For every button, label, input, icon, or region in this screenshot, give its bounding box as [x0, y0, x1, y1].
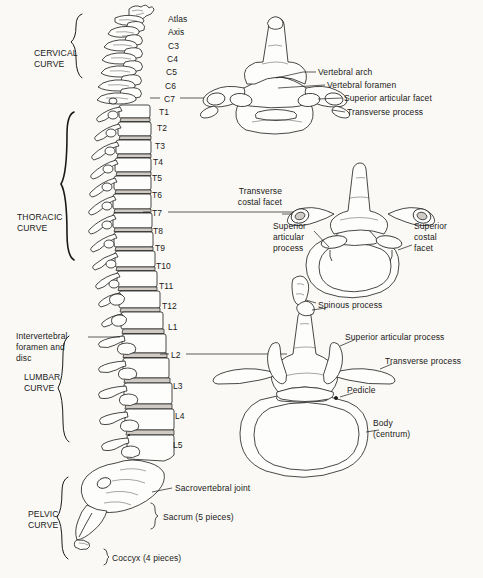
vertebra-label-c7: C7 — [164, 94, 175, 105]
callout-transverse-process-cervical: Transverse process — [347, 107, 423, 118]
vertebra-label-t2: T2 — [157, 123, 167, 134]
vertebra-label-t4: T4 — [153, 157, 163, 168]
sacrum-coccyx — [74, 460, 164, 550]
vertebra-label-t11: T11 — [159, 281, 173, 292]
spine-anatomy-figure: CERVICALCURVE THORACICCURVE LUMBARCURVE … — [0, 0, 483, 578]
callout-transverse-process-lumbar: Transverse process — [385, 356, 461, 367]
curve-label-lumbar: LUMBARCURVE — [24, 372, 60, 394]
callout-body-centrum: Body (centrum) — [373, 418, 410, 440]
callout-vertebral-foramen: Vertebral foramen — [327, 80, 396, 91]
curve-label-cervical: CERVICALCURVE — [34, 48, 78, 70]
vertebra-label-l3: L3 — [173, 381, 183, 392]
vertebra-label-atlas: Atlas — [168, 14, 187, 25]
callout-superior-costal-facet: Superior costal facet — [414, 221, 447, 254]
callout-transverse-costal-facet: Transverse costal facet — [228, 186, 282, 208]
vertebra-label-l2: L2 — [171, 350, 181, 361]
vertebra-label-t7: T7 — [152, 208, 162, 219]
vertebra-label-t10: T10 — [156, 261, 171, 272]
vertebra-label-l1: L1 — [168, 322, 178, 333]
callout-vertebral-arch: Vertebral arch — [318, 67, 372, 78]
vertebra-label-c5: C5 — [166, 67, 177, 78]
vertebra-label-t8: T8 — [153, 226, 163, 237]
callout-spinous-process: Spinous process — [318, 300, 382, 311]
label-sacrovertebral-joint: Sacrovertebral joint — [175, 483, 250, 494]
vertebra-label-axis: Axis — [168, 27, 184, 38]
vertebra-label-t3: T3 — [155, 141, 165, 152]
vertebra-label-t12: T12 — [162, 301, 177, 312]
vertebra-label-c3: C3 — [168, 41, 179, 52]
vertebra-label-t9: T9 — [155, 243, 165, 254]
callout-pedicle: Pedicle — [347, 385, 376, 396]
callout-superior-articular-facet: Superior articular facet — [344, 93, 432, 104]
curve-braces — [57, 14, 82, 559]
vertebra-label-c6: C6 — [165, 81, 176, 92]
vertebra-label-l4: L4 — [175, 411, 185, 422]
label-coccyx: Coccyx (4 pieces) — [112, 553, 181, 564]
label-intervertebral-foramen-and-disc: Intervertebral foramen and disc — [16, 331, 67, 364]
label-sacrum: Sacrum (5 pieces) — [163, 512, 234, 523]
vertebra-label-t5: T5 — [152, 173, 162, 184]
vertebra-label-t1: T1 — [159, 107, 169, 118]
curve-label-pelvic: PELVICCURVE — [28, 509, 59, 531]
vertebra-label-l5: L5 — [173, 440, 183, 451]
callout-superior-articular-process-lumbar: Superior articular process — [345, 332, 444, 343]
thoracic-vertebra-art — [287, 163, 434, 305]
lumbar-vertebrae — [99, 329, 175, 461]
curve-label-thoracic: THORACICCURVE — [17, 212, 63, 234]
callout-superior-articular-process-thoracic: Superior articular process — [273, 221, 306, 254]
vertebral-column-lateral — [74, 5, 174, 549]
vertebra-label-t6: T6 — [152, 190, 162, 201]
vertebra-label-c4: C4 — [167, 54, 178, 65]
